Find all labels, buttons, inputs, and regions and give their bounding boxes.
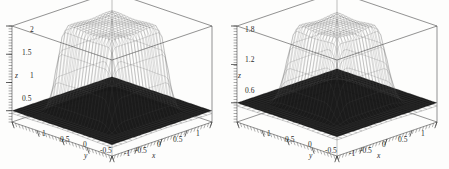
y-tick-label: -0.5 — [100, 147, 112, 155]
z-tick-label: 1.8 — [245, 26, 254, 34]
x-axis-label: x — [377, 152, 380, 160]
x-corner-tick-label: -1 — [124, 150, 130, 158]
y-tick-label: 1 — [267, 130, 271, 138]
x-tick-label: 0 — [157, 141, 161, 149]
y-tick-label: 0 — [83, 141, 87, 149]
y-tick-label: 1 — [42, 130, 46, 138]
x-tick-label: 1 — [196, 130, 200, 138]
surface-plot-left: 2 1.5 1 0.5 z 1 0.5 0 -0.5 y -1 -0.5 0 0… — [0, 0, 224, 169]
y-tick-label: 0.5 — [60, 136, 69, 144]
x-tick-label: -0.5 — [135, 147, 147, 155]
z-tick-label: 1.5 — [22, 49, 31, 57]
z-tick-label: 0.6 — [245, 87, 254, 95]
z-axis-label: z — [238, 72, 241, 80]
z-axis-label: z — [15, 72, 18, 80]
figure-canvas: 2 1.5 1 0.5 z 1 0.5 0 -0.5 y -1 -0.5 0 0… — [0, 0, 449, 169]
y-axis-label: y — [309, 152, 312, 160]
z-tick-label: 1.2 — [245, 56, 254, 64]
y-tick-label: 0 — [308, 141, 312, 149]
y-tick-label: 0.5 — [285, 136, 294, 144]
x-tick-label: 0.5 — [398, 136, 407, 144]
y-tick-label: -0.5 — [325, 147, 337, 155]
z-tick-label: 2 — [30, 26, 34, 34]
y-axis-label: y — [84, 152, 87, 160]
surface-plot-right-canvas — [225, 0, 449, 169]
surface-plot-right: 1.8 1.2 0.6 z 1 0.5 0 -0.5 y -1 -0.5 0 0… — [225, 0, 449, 169]
x-tick-label: 1 — [421, 130, 425, 138]
z-tick-label: 1 — [30, 72, 34, 80]
z-tick-label: 0.5 — [22, 95, 31, 103]
x-tick-label: 0.5 — [173, 136, 182, 144]
x-tick-label: -0.5 — [360, 147, 372, 155]
x-tick-label: 0 — [382, 141, 386, 149]
x-corner-tick-label: -1 — [349, 150, 355, 158]
x-axis-label: x — [152, 152, 155, 160]
